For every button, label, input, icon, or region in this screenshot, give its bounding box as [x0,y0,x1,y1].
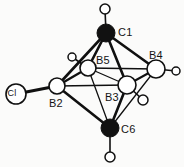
hydrogen-atom-b5 [68,53,76,61]
atom-c6 [101,119,119,137]
hydrogen-atom-b3 [138,95,148,105]
atom-b2 [49,78,65,94]
cage-atom-layer [6,24,165,137]
atom-c1 [97,24,115,42]
hydrogen-atom-c1 [100,4,110,14]
atom-label-c6: C6 [121,124,135,135]
molecular-structure-figure: C1B4B5B2B3C6Cl [0,0,184,167]
atom-label-b2: B2 [49,98,63,109]
hydrogen-atom-b4 [172,67,180,75]
atom-label-b3: B3 [105,92,119,103]
atom-label-b5: B5 [96,55,110,66]
bond-b2-b3 [57,85,127,86]
structure-drawing [0,0,184,167]
bond-b5-b4 [88,68,156,69]
atom-b4 [147,60,165,78]
atom-label-b4: B4 [149,50,163,61]
atom-b3 [118,76,136,94]
atom-b5 [80,60,96,76]
hydrogen-atom-c6 [105,152,115,162]
atom-label-cl: Cl [8,89,17,98]
atom-label-c1: C1 [118,27,132,38]
